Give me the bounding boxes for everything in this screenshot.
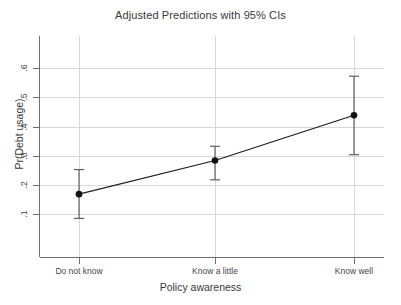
y-tick-mark-03: [33, 156, 39, 157]
y-tick-mark-05: [33, 97, 39, 98]
y-tick-label-01: .1: [19, 208, 29, 220]
gridline-vertical-know-well: [354, 36, 355, 257]
chart-title: Adjusted Predictions with 95% CIs: [0, 9, 401, 21]
y-tick-mark-02: [33, 185, 39, 186]
gridline-horizontal-05: [40, 97, 384, 98]
gridline-horizontal-03: [40, 156, 384, 157]
chart-figure: Adjusted Predictions with 95% CIs .6 .5 …: [0, 0, 401, 305]
plot-area: [40, 36, 384, 257]
y-axis-line: [39, 36, 40, 257]
x-axis-line: [40, 257, 384, 258]
gridline-horizontal-06: [40, 68, 384, 69]
gridline-vertical-know-a-little: [215, 36, 216, 257]
y-axis-title: Pr(Debt usage): [13, 74, 25, 194]
x-axis-title: Policy awareness: [0, 281, 401, 293]
x-tick-label-know-well: Know well: [335, 266, 373, 276]
y-tick-mark-01: [33, 214, 39, 215]
x-tick-label-know-a-little: Know a little: [192, 266, 238, 276]
y-tick-mark-06: [33, 68, 39, 69]
y-tick-mark-04: [33, 127, 39, 128]
gridline-vertical-do-not-know: [79, 36, 80, 257]
x-tick-mark-know-a-little: [215, 258, 216, 264]
x-tick-mark-do-not-know: [79, 258, 80, 264]
x-tick-mark-know-well: [354, 258, 355, 264]
x-tick-label-do-not-know: Do not know: [55, 266, 102, 276]
gridline-horizontal-02: [40, 185, 384, 186]
y-tick-label-06: .6: [19, 62, 29, 74]
gridline-horizontal-04: [40, 127, 384, 128]
gridline-horizontal-01: [40, 214, 384, 215]
